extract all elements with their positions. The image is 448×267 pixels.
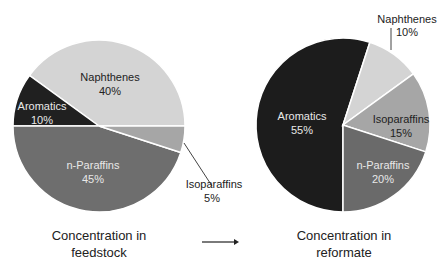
left-isoparaffins-pct: 5% — [204, 192, 220, 204]
right-aromatics-pct: 55% — [291, 124, 313, 136]
left-aromatics-pct: 10% — [31, 114, 53, 126]
reformate-caption: Concentration in reformate — [269, 227, 419, 261]
left-naphthenes-pct: 40% — [99, 85, 121, 97]
left-isoparaffins-label: Isoparaffins — [186, 178, 243, 190]
right-naphthenes-label: Naphthenes — [377, 13, 437, 25]
right-isoparaffins-label: Isoparaffins — [373, 113, 430, 125]
right-nparaffins-pct: 20% — [372, 173, 394, 185]
right-nparaffins-label: n-Paraffins — [357, 159, 410, 171]
arrow-icon — [202, 239, 239, 245]
left-aromatics-label: Aromatics — [18, 100, 67, 112]
reformate-caption-line1: Concentration in — [269, 227, 419, 244]
right-naphthenes-pct: 10% — [396, 26, 418, 38]
right-aromatics-label: Aromatics — [278, 110, 327, 122]
feedstock-pie — [13, 40, 185, 212]
right-isoparaffins-pct: 15% — [390, 127, 412, 139]
feedstock-caption-line2: feedstock — [24, 244, 174, 261]
feedstock-caption: Concentration in feedstock — [24, 227, 174, 261]
feedstock-caption-line1: Concentration in — [24, 227, 174, 244]
left-nparaffins-label: n-Paraffins — [67, 159, 120, 171]
left-nparaffins-pct: 45% — [82, 173, 104, 185]
reformate-caption-line2: reformate — [269, 244, 419, 261]
left-naphthenes-label: Naphthenes — [80, 71, 140, 83]
reformate-pie — [256, 38, 430, 212]
